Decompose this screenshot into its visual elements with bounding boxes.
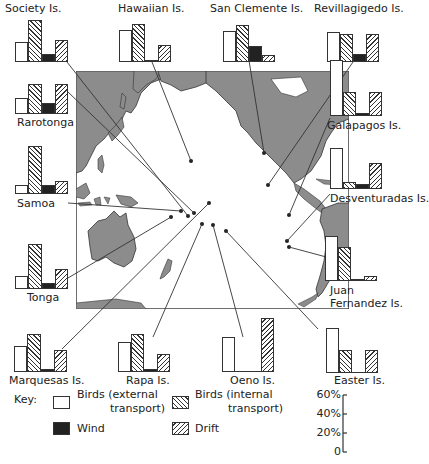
- label-easter: Easter Is.: [334, 375, 385, 387]
- chart-hawaiian: [119, 18, 174, 62]
- key-label-drift: Drift: [195, 423, 219, 435]
- bar-birds-internal: [28, 84, 42, 114]
- bar-wind: [144, 369, 157, 372]
- bar-birds-internal: [28, 244, 42, 289]
- label-san-clemente: San Clemente Is.: [210, 3, 303, 15]
- bar-birds-external: [15, 276, 28, 289]
- bar-drift: [54, 350, 67, 372]
- chart-desventuradas: [330, 148, 385, 189]
- bar-birds-external: [222, 337, 235, 372]
- label-oeno: Oeno Is.: [230, 375, 275, 387]
- bar-drift: [366, 34, 379, 62]
- chart-samoa: [15, 146, 70, 194]
- bar-wind: [356, 113, 369, 116]
- bar-birds-external: [15, 185, 28, 194]
- label-galapagos: Galapagos Is.: [327, 120, 401, 132]
- bar-drift: [55, 40, 68, 62]
- bar-birds-external: [326, 328, 339, 373]
- bar-drift: [261, 318, 274, 372]
- bar-wind: [351, 279, 364, 281]
- bar-drift: [369, 163, 382, 189]
- bar-drift: [369, 92, 382, 116]
- chart-juan-fernandez: [325, 236, 380, 281]
- bar-wind: [356, 184, 369, 189]
- bar-birds-internal: [338, 247, 351, 281]
- bar-drift: [55, 181, 68, 194]
- chart-oeno: [222, 318, 277, 372]
- key-label-wind: Wind: [77, 423, 105, 435]
- bar-wind: [41, 369, 54, 372]
- key-swatch-wind: [53, 422, 70, 435]
- label-desventuradas: Desventuradas Is.: [330, 193, 429, 205]
- key-swatch-birds-internal: [172, 396, 189, 409]
- key-label-birds-internal-1: Birds (internal: [195, 389, 273, 401]
- bar-birds-internal: [28, 20, 42, 62]
- bar-birds-external: [119, 30, 132, 62]
- bar-birds-external: [325, 236, 338, 281]
- scale-tick-60: 60%: [301, 389, 341, 401]
- bar-wind: [42, 283, 55, 289]
- bar-birds-internal: [236, 25, 249, 62]
- chart-rarotonga: [15, 84, 70, 114]
- bar-birds-external: [330, 60, 343, 116]
- label-society: Society Is.: [5, 3, 61, 15]
- bar-birds-internal: [27, 334, 41, 372]
- scale-tick-20: 20%: [301, 427, 341, 439]
- bar-birds-internal: [339, 350, 352, 373]
- bar-birds-internal: [340, 34, 353, 62]
- bar-drift: [262, 55, 275, 62]
- chart-easter: [326, 328, 381, 373]
- bar-drift: [365, 350, 378, 373]
- bar-drift: [158, 45, 171, 62]
- label-marquesas: Marquesas Is.: [9, 375, 84, 387]
- bar-wind: [42, 185, 55, 194]
- bar-birds-external: [118, 342, 131, 372]
- label-rapa: Rapa Is.: [126, 375, 170, 387]
- bar-drift: [364, 276, 377, 281]
- label-juan-fernandez-1: Juan: [330, 285, 354, 297]
- bar-birds-external: [327, 32, 340, 62]
- bar-drift: [55, 269, 68, 289]
- key-label-birds-internal-2: transport): [228, 403, 283, 415]
- chart-society: [15, 18, 70, 62]
- bar-birds-internal: [131, 334, 144, 372]
- chart-tonga: [15, 244, 70, 289]
- scale-axis: [340, 392, 360, 456]
- key-label-birds-external-2: transport): [110, 403, 165, 415]
- bar-birds-internal: [343, 92, 356, 116]
- key-swatch-drift: [172, 422, 189, 435]
- chart-baseline: [222, 371, 274, 372]
- scale-tick-0: 0: [301, 446, 341, 458]
- bar-drift: [157, 354, 170, 372]
- bar-birds-external: [15, 42, 28, 62]
- chart-san-clemente: [223, 18, 278, 62]
- bar-wind: [42, 103, 55, 114]
- bar-birds-internal: [28, 146, 42, 194]
- chart-baseline: [326, 372, 378, 373]
- chart-rapa: [118, 334, 173, 372]
- bar-drift: [55, 84, 68, 114]
- chart-marquesas: [14, 334, 69, 372]
- bar-birds-external: [14, 346, 27, 372]
- label-samoa: Samoa: [17, 198, 55, 210]
- bar-wind: [42, 54, 55, 62]
- label-juan-fernandez-2: Fernandez Is.: [330, 298, 403, 310]
- bar-wind: [145, 60, 158, 62]
- label-hawaiian: Hawaiian Is.: [118, 3, 185, 15]
- chart-galapagos: [330, 60, 385, 116]
- bar-birds-internal: [343, 182, 356, 189]
- label-tonga: Tonga: [27, 292, 59, 304]
- key-title: Key:: [14, 394, 37, 406]
- bar-wind: [249, 46, 262, 62]
- chart-revillagigedo: [327, 18, 382, 62]
- key-swatch-birds-external: [53, 396, 70, 409]
- bar-birds-internal: [132, 24, 145, 62]
- scale-tick-40: 40%: [301, 408, 341, 420]
- bar-birds-external: [15, 98, 28, 114]
- label-revillagigedo: Revillagigedo Is.: [314, 3, 404, 15]
- key-label-birds-external-1: Birds (external: [77, 389, 158, 401]
- bar-birds-external: [330, 148, 343, 189]
- label-rarotonga: Rarotonga: [17, 117, 74, 129]
- bar-birds-external: [223, 31, 236, 62]
